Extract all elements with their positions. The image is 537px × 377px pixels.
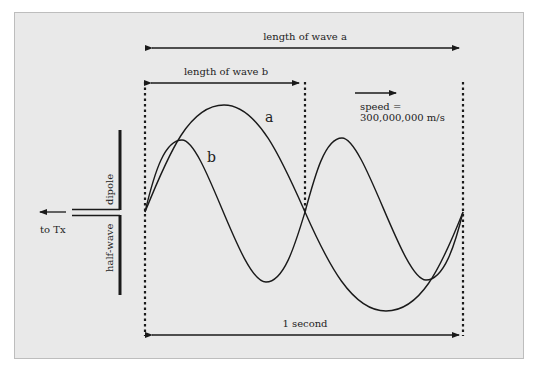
speed-value: 300,000,000 m/s <box>360 112 445 123</box>
wave-a <box>145 105 463 311</box>
one-second-label: 1 second <box>282 318 328 329</box>
wave-a-label: a <box>265 109 273 125</box>
to-tx-label: to Tx <box>40 224 66 235</box>
wave-diagram: length of wave a length of wave b speed … <box>0 0 537 377</box>
speed-label: speed = <box>360 101 401 112</box>
wave-b-length-label: length of wave b <box>184 66 268 77</box>
dipole-label: dipole <box>104 174 115 205</box>
wave-a-length-label: length of wave a <box>263 31 347 42</box>
half-wave-label: half-wave <box>104 224 115 272</box>
wave-b-label: b <box>207 149 216 165</box>
